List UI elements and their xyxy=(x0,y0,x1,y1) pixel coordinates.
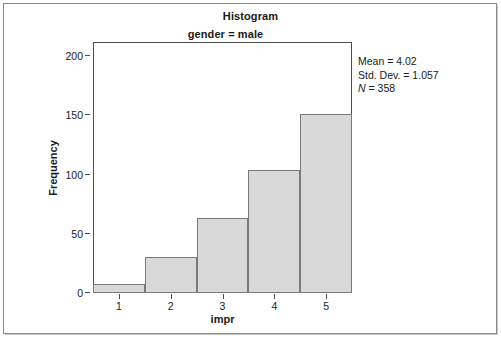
x-axis-tick-mark xyxy=(223,294,224,299)
x-axis-tick-mark xyxy=(119,294,120,299)
stat-n: N = 358 xyxy=(358,82,439,96)
histogram-bar xyxy=(197,218,249,293)
page-title: Histogram xyxy=(0,10,501,22)
y-axis-tick: 200 xyxy=(0,49,93,63)
y-axis-tick-mark xyxy=(85,174,90,175)
stat-stddev: Std. Dev. = 1.057 xyxy=(358,69,439,83)
y-axis-tick-mark xyxy=(85,233,90,234)
y-axis-tick: 150 xyxy=(0,108,93,122)
x-axis-tick-label: 5 xyxy=(306,300,346,312)
y-axis-tick: 100 xyxy=(0,168,93,182)
x-axis-tick-mark xyxy=(274,294,275,299)
y-axis-tick-label: 200 xyxy=(43,49,83,63)
y-axis-tick-mark xyxy=(85,114,90,115)
y-axis-tick-mark xyxy=(85,55,90,56)
x-axis-tick-label: 1 xyxy=(99,300,139,312)
histogram-bar xyxy=(248,170,300,293)
y-axis-tick-label: 150 xyxy=(43,108,83,122)
x-axis-tick-label: 4 xyxy=(254,300,294,312)
stat-mean: Mean = 4.02 xyxy=(358,55,439,69)
x-axis-tick-mark xyxy=(171,294,172,299)
histogram-bar xyxy=(300,114,352,293)
y-axis-tick-mark xyxy=(85,292,90,293)
stat-n-symbol: N xyxy=(358,82,366,94)
chart-subtitle: gender = male xyxy=(0,28,451,40)
bar-series xyxy=(93,42,352,293)
histogram-bar xyxy=(93,284,145,293)
histogram-bar xyxy=(145,257,197,293)
y-axis-tick-label: 100 xyxy=(43,168,83,182)
histogram-figure: Histogram gender = male Frequency 050100… xyxy=(0,0,501,338)
x-axis-tick-label: 2 xyxy=(151,300,191,312)
y-axis-tick-label: 50 xyxy=(43,227,83,241)
stat-n-value: = 358 xyxy=(366,82,396,94)
statistics-annotation: Mean = 4.02 Std. Dev. = 1.057 N = 358 xyxy=(358,55,439,96)
x-axis-title: impr xyxy=(93,313,352,325)
y-axis-tick: 0 xyxy=(0,286,93,300)
x-axis-tick-label: 3 xyxy=(203,300,243,312)
y-axis-tick: 50 xyxy=(0,227,93,241)
y-axis-tick-label: 0 xyxy=(43,286,83,300)
x-axis-tick-mark xyxy=(326,294,327,299)
